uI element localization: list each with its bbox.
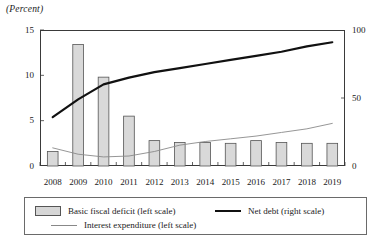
x-axis-labels: 2008200920102011201220132014201520162017… [40, 176, 345, 190]
x-axis-label-2016: 2016 [243, 176, 268, 190]
thick-line-swatch-icon [215, 210, 241, 212]
x-axis-label-2010: 2010 [91, 176, 116, 190]
legend-label-net-debt: Net debt (right scale) [248, 206, 324, 216]
bar-2015 [225, 143, 236, 166]
bar-2019 [327, 143, 338, 166]
legend-entry-interest-expenditure: Interest expenditure (left scale) [51, 220, 196, 230]
bar-2012 [149, 141, 160, 166]
legend-label-basic-fiscal-deficit: Basic fiscal deficit (left scale) [68, 206, 175, 216]
bar-2008 [47, 151, 58, 166]
x-axis-label-2017: 2017 [269, 176, 294, 190]
x-axis-label-2012: 2012 [142, 176, 167, 190]
line-interest-expenditure [53, 123, 333, 157]
bar-2016 [251, 141, 262, 166]
legend-label-interest-expenditure: Interest expenditure (left scale) [84, 220, 196, 230]
line-net-debt [53, 42, 333, 117]
x-axis-label-2018: 2018 [294, 176, 319, 190]
x-axis-label-2009: 2009 [65, 176, 90, 190]
thin-line-swatch-icon [51, 225, 77, 226]
legend-entry-net-debt: Net debt (right scale) [215, 206, 324, 216]
x-axis-label-2014: 2014 [193, 176, 218, 190]
x-axis-label-2013: 2013 [167, 176, 192, 190]
x-axis-label-2019: 2019 [320, 176, 345, 190]
bar-swatch-icon [35, 206, 61, 216]
bar-2014 [200, 142, 211, 166]
bar-2009 [73, 45, 84, 166]
bar-2018 [302, 143, 313, 166]
legend-entry-basic-fiscal-deficit: Basic fiscal deficit (left scale) [35, 206, 175, 216]
x-axis-label-2008: 2008 [40, 176, 65, 190]
bar-2011 [124, 116, 135, 166]
x-axis-label-2015: 2015 [218, 176, 243, 190]
x-axis-label-2011: 2011 [116, 176, 141, 190]
legend: Basic fiscal deficit (left scale) Net de… [24, 197, 367, 235]
fiscal-indicators-chart: (Percent) 15 10 5 0 100 50 0 20082009201… [0, 0, 391, 242]
bar-2010 [98, 77, 109, 166]
bar-2017 [276, 142, 287, 166]
